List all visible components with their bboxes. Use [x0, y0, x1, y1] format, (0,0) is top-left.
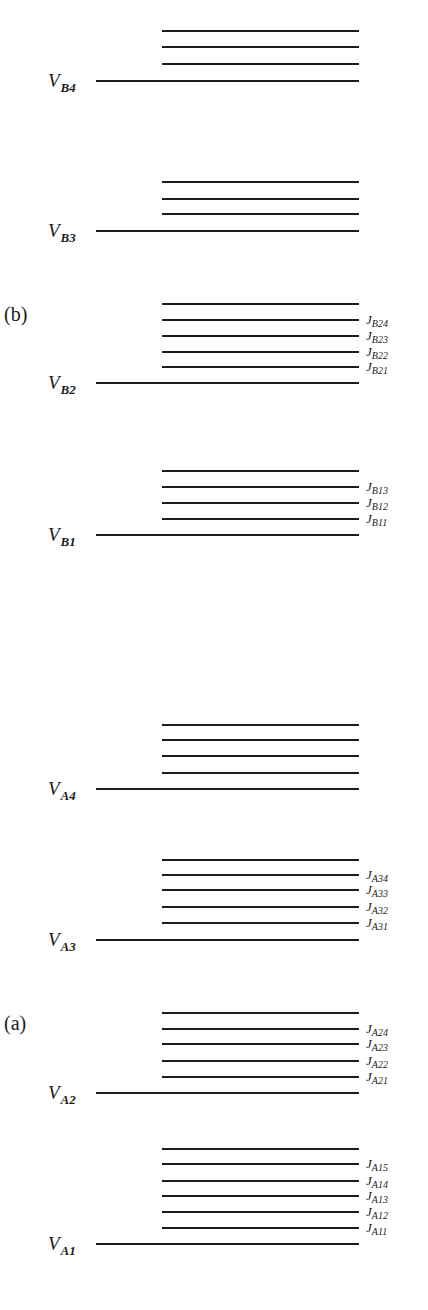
label-main: J: [366, 1053, 372, 1068]
label-subscript: A24: [372, 1027, 388, 1038]
sublevel-line: [162, 1163, 359, 1165]
label-subscript: B4: [61, 80, 76, 95]
panel-label-b: (b): [4, 304, 27, 324]
j-label-a21: JA21: [366, 1070, 388, 1083]
j-label-a34: JA34: [366, 868, 388, 881]
sublevel-line: [162, 319, 359, 321]
label-main: J: [366, 915, 372, 930]
sublevel-line: [162, 366, 359, 368]
base-level-line: [96, 534, 359, 536]
label-main: V: [48, 372, 60, 393]
sublevel-line: [162, 889, 359, 891]
sublevel-line: [162, 1043, 359, 1045]
sublevel-line: [162, 351, 359, 353]
label-main: J: [366, 867, 372, 882]
base-level-label: VA2: [48, 1083, 76, 1102]
base-level-label: VA3: [48, 930, 76, 949]
energy-level-diagram: (b)(a)VB4VB3VB2JB21JB22JB23JB24VB1JB11JB…: [0, 0, 428, 1310]
panel-label-a: (a): [4, 1013, 26, 1033]
j-label-b23: JB23: [366, 329, 388, 342]
j-label-b22: JB22: [366, 345, 388, 358]
sublevel-line: [162, 30, 359, 32]
label-subscript: A15: [372, 1162, 388, 1173]
j-label-a15: JA15: [366, 1157, 388, 1170]
base-level-label: VB4: [48, 71, 76, 90]
label-main: V: [48, 1233, 60, 1254]
sublevel-line: [162, 859, 359, 861]
label-main: V: [48, 929, 60, 950]
label-subscript: A22: [372, 1059, 388, 1070]
label-main: J: [366, 899, 372, 914]
label-subscript: A13: [372, 1194, 388, 1205]
base-level-line: [96, 230, 359, 232]
base-level-label: VB1: [48, 525, 76, 544]
label-subscript: A3: [61, 939, 76, 954]
label-subscript: A11: [372, 1226, 387, 1237]
label-subscript: B13: [372, 485, 388, 496]
sublevel-line: [162, 724, 359, 726]
sublevel-line: [162, 181, 359, 183]
label-main: J: [366, 312, 372, 327]
label-subscript: A31: [372, 921, 388, 932]
label-main: J: [366, 1220, 372, 1235]
sublevel-line: [162, 874, 359, 876]
label-main: J: [366, 1204, 372, 1219]
label-subscript: A34: [372, 873, 388, 884]
j-label-b13: JB13: [366, 480, 388, 493]
label-subscript: B21: [372, 365, 388, 376]
label-main: V: [48, 70, 60, 91]
base-level-line: [96, 1243, 359, 1245]
j-label-b11: JB11: [366, 512, 387, 525]
label-subscript: A32: [372, 905, 388, 916]
j-label-b21: JB21: [366, 360, 388, 373]
sublevel-line: [162, 303, 359, 305]
label-subscript: A14: [372, 1179, 388, 1190]
label-main: J: [366, 511, 372, 526]
j-label-b24: JB24: [366, 313, 388, 326]
j-label-a24: JA24: [366, 1022, 388, 1035]
label-main: V: [48, 524, 60, 545]
label-main: J: [366, 1156, 372, 1171]
sublevel-line: [162, 1211, 359, 1213]
base-level-line: [96, 382, 359, 384]
label-subscript: B23: [372, 334, 388, 345]
base-level-line: [96, 1092, 359, 1094]
label-main: J: [366, 1021, 372, 1036]
sublevel-line: [162, 1028, 359, 1030]
label-subscript: B3: [61, 230, 76, 245]
j-label-a11: JA11: [366, 1221, 387, 1234]
label-subscript: B22: [372, 350, 388, 361]
label-main: J: [366, 359, 372, 374]
label-subscript: B24: [372, 318, 388, 329]
sublevel-line: [162, 1076, 359, 1078]
j-label-a23: JA23: [366, 1037, 388, 1050]
sublevel-line: [162, 198, 359, 200]
j-label-a13: JA13: [366, 1189, 388, 1202]
sublevel-line: [162, 518, 359, 520]
j-label-a22: JA22: [366, 1054, 388, 1067]
label-main: J: [366, 1036, 372, 1051]
base-level-line: [96, 939, 359, 941]
label-subscript: B11: [372, 517, 387, 528]
label-subscript: A1: [61, 1243, 76, 1258]
label-subscript: A12: [372, 1210, 388, 1221]
sublevel-line: [162, 46, 359, 48]
sublevel-line: [162, 502, 359, 504]
label-subscript: A23: [372, 1042, 388, 1053]
label-subscript: A2: [61, 1092, 76, 1107]
label-main: V: [48, 220, 60, 241]
j-label-a12: JA12: [366, 1205, 388, 1218]
j-label-a14: JA14: [366, 1174, 388, 1187]
label-main: V: [48, 1082, 60, 1103]
base-level-line: [96, 80, 359, 82]
sublevel-line: [162, 486, 359, 488]
label-subscript: B1: [61, 534, 76, 549]
j-label-b12: JB12: [366, 496, 388, 509]
sublevel-line: [162, 335, 359, 337]
label-subscript: A33: [372, 888, 388, 899]
base-level-label: VB3: [48, 221, 76, 240]
label-subscript: A21: [372, 1075, 388, 1086]
sublevel-line: [162, 1195, 359, 1197]
base-level-label: VA4: [48, 779, 76, 798]
label-main: V: [48, 778, 60, 799]
